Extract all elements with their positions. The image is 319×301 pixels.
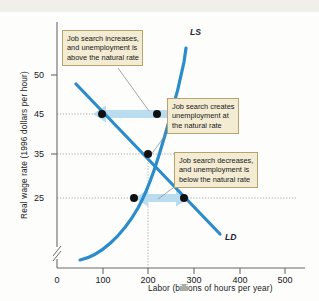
note-at-line3: the natural rate — [172, 121, 234, 131]
note-at-line2: unemployment at — [172, 111, 234, 121]
x-axis-title: Labor (billions of hours per year) — [148, 283, 273, 293]
y-axis-title: Real wage rate (1996 dollars per hour) — [19, 60, 29, 230]
y-axis-break-icon — [53, 246, 61, 261]
demand-curve-label: LD — [225, 232, 236, 242]
x-tick-label-100: 100 — [92, 275, 114, 285]
note-above-line2: and unemployment is — [67, 43, 139, 53]
note-at-natural-rate: Job search creates unemployment at the n… — [167, 98, 239, 134]
x-tick-label-0: 0 — [48, 275, 66, 285]
y-tick-marks — [51, 75, 57, 154]
y-tick-label-35: 35 — [30, 149, 48, 159]
note-above-line3: above the natural rate — [67, 53, 139, 63]
supply-curve-label: LS — [190, 27, 201, 37]
y-tick-label-25: 25 — [30, 193, 48, 203]
ls-point-at-45 — [153, 110, 161, 118]
x-tick-label-500: 500 — [274, 275, 296, 285]
note-below-line1: Job search decreases, — [179, 156, 253, 166]
y-tick-label-50: 50 — [30, 70, 48, 80]
y-tick-label-45: 45 — [30, 109, 48, 119]
note-at-line1: Job search creates — [172, 102, 234, 112]
note-below-line3: below the natural rate — [179, 175, 253, 185]
ls-point-at-25 — [130, 194, 138, 202]
leader-above — [118, 68, 149, 111]
x-tick-marks — [103, 268, 285, 274]
note-above-line1: Job search increases, — [67, 34, 139, 44]
equilibrium-point — [144, 150, 152, 158]
note-below-natural-rate: Job search decreases, and unemployment i… — [174, 152, 258, 188]
labor-market-chart: 50 45 35 25 0 100 200 300 400 500 Real w… — [0, 0, 319, 301]
note-above-natural-rate: Job search increases, and unemployment i… — [62, 30, 143, 66]
ld-point-at-25 — [180, 194, 188, 202]
note-below-line2: and unemployment is — [179, 165, 253, 175]
ld-point-at-45 — [98, 110, 106, 118]
